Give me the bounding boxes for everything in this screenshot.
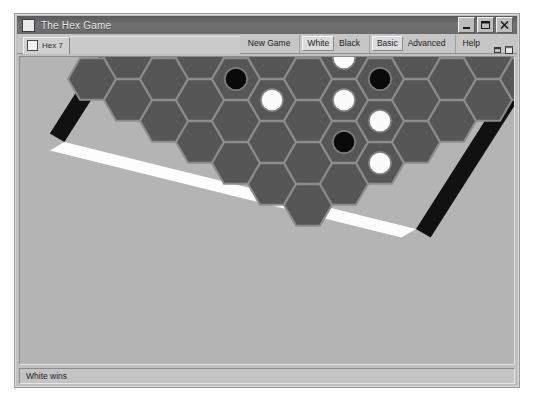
status-message: White wins [20,371,67,381]
white-stone [370,111,391,132]
white-stone [370,153,391,174]
document-icon [27,40,38,51]
status-bar: White wins [19,368,515,384]
help-button[interactable]: Help [458,36,485,51]
close-button[interactable] [496,17,513,33]
document-tab-label: Hex 7 [42,41,63,50]
menu-group-level: Basic Advanced [369,35,453,53]
menu-group-help: Help [455,35,487,53]
black-player-button[interactable]: Black [334,36,365,51]
menu-window-icons [488,40,517,48]
black-stone [370,69,391,90]
new-window-icon[interactable] [505,40,513,48]
black-stone [334,132,355,153]
app-window-icon [22,19,35,32]
minimize-button[interactable] [458,17,475,33]
white-stone [334,90,355,111]
white-stone [262,90,283,111]
black-stone [226,69,247,90]
advanced-level-button[interactable]: Advanced [403,36,451,51]
white-player-button[interactable]: White [302,36,334,51]
menu-group-game: New Game [241,35,298,53]
game-board-canvas[interactable] [19,56,515,365]
window-title: The Hex Game [41,20,111,31]
basic-level-button[interactable]: Basic [372,36,403,51]
document-tab-hex7[interactable]: Hex 7 [23,37,70,54]
application-window: The Hex Game Hex 7 [14,13,520,388]
restore-window-icon[interactable] [494,40,502,48]
menu-bar: Hex 7 New Game White Black Basic Advance… [17,34,517,54]
hex-board[interactable] [20,57,515,364]
new-game-button[interactable]: New Game [243,36,296,51]
tab-strip-filler [70,36,240,54]
menu-commands: New Game White Black Basic Advanced Help [240,34,517,54]
window-controls [458,17,515,33]
menu-group-player: White Black [299,35,367,53]
maximize-button[interactable] [477,17,494,33]
title-bar[interactable]: The Hex Game [17,16,517,34]
